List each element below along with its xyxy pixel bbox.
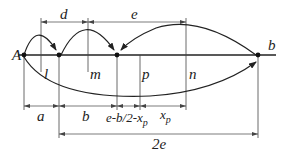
label-e-b2-xp: e-b/2-xp [106, 110, 148, 128]
point-A [22, 53, 27, 58]
label-a: a [37, 108, 45, 124]
point-3 [115, 53, 120, 58]
label-xp: xp [159, 107, 171, 125]
label-A: A [11, 47, 22, 63]
label-2e: 2e [152, 136, 167, 152]
label-l: l [44, 66, 48, 82]
jump-diagram: A b d e l m p n a b e-b/2-xp xp 2e [0, 0, 290, 159]
label-n: n [189, 66, 197, 82]
point-b [256, 53, 261, 58]
label-d: d [60, 6, 68, 22]
label-e: e [131, 6, 138, 22]
label-m: m [90, 66, 101, 82]
point-2 [57, 53, 62, 58]
label-b-point: b [268, 37, 276, 53]
label-p: p [141, 66, 150, 82]
label-b-dim: b [82, 108, 90, 124]
diagram-svg: A b d e l m p n a b e-b/2-xp xp 2e [0, 0, 290, 159]
